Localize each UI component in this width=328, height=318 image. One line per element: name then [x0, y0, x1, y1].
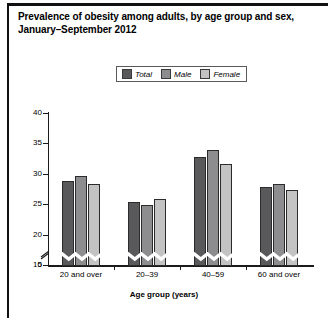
bar-total-2	[194, 157, 207, 266]
chart-legend: TotalMaleFemale	[116, 66, 247, 82]
legend-label: Total	[135, 70, 152, 79]
bar-male-3	[273, 184, 286, 266]
bar-group	[114, 112, 180, 266]
legend-label: Male	[174, 70, 191, 79]
bar-group	[48, 112, 114, 266]
bar-total-1	[128, 202, 141, 266]
bar-male-2	[207, 150, 220, 267]
y-axis-title: Percent	[0, 146, 1, 175]
figure-caption-clipped	[60, 309, 300, 318]
figure-panel: Prevalence of obesity among adults, by a…	[0, 0, 328, 318]
x-category-label: 60 and over	[246, 270, 312, 279]
page-top-rule	[7, 3, 328, 6]
bar-total-3	[260, 187, 273, 266]
x-category-label: 20 and over	[48, 270, 114, 279]
bar-female-1	[154, 199, 167, 266]
bar-female-3	[286, 190, 299, 266]
bar-male-0	[75, 176, 88, 266]
bar-female-2	[220, 164, 233, 266]
legend-swatch-icon	[122, 69, 132, 79]
page-left-rule	[7, 3, 9, 318]
bar-group	[246, 112, 312, 266]
y-tick-label: 25	[2, 200, 42, 208]
y-tick-label: 40	[2, 109, 42, 117]
plot-area	[48, 112, 312, 266]
legend-label: Female	[213, 70, 240, 79]
page-title: Prevalence of obesity among adults, by a…	[18, 11, 318, 36]
x-category-label: 40–59	[180, 270, 246, 279]
legend-item-female: Female	[200, 69, 240, 79]
bar-female-0	[88, 184, 101, 266]
axis-break-marker	[40, 249, 52, 262]
legend-item-total: Total	[122, 69, 152, 79]
x-axis-title: Age group (years)	[0, 290, 328, 299]
legend-swatch-icon	[200, 69, 210, 79]
y-tick-label: 20	[2, 231, 42, 239]
bar-group	[180, 112, 246, 266]
legend-item-male: Male	[161, 69, 191, 79]
bar-male-1	[141, 205, 154, 266]
bar-total-0	[62, 181, 75, 266]
y-tick-label: 15	[2, 261, 42, 269]
legend-swatch-icon	[161, 69, 171, 79]
x-category-label: 20–39	[114, 270, 180, 279]
y-tick-label: 35	[2, 139, 42, 147]
y-tick-label: 30	[2, 170, 42, 178]
